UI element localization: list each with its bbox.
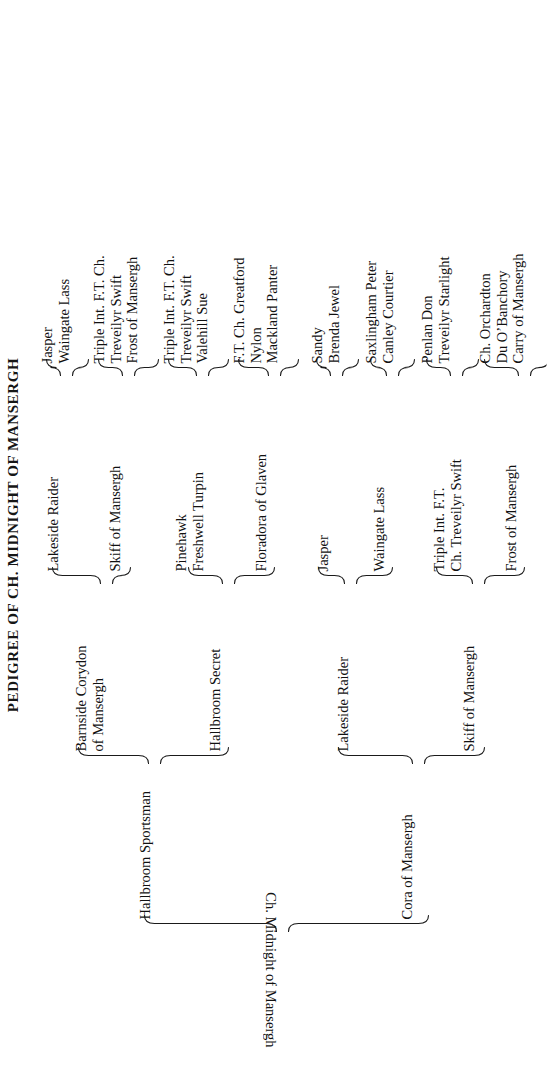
pedigree-page: PEDIGREE OF CH. MIDNIGHT OF MANSERGH Ch.… [0, 0, 551, 1069]
node-name: Sandy Brenda Jewel [308, 284, 341, 363]
pedigree-node: Skiff of Mansergh [106, 465, 123, 571]
pedigree-node: F.T. Ch. Greatford Nylon Mackland Panter [230, 257, 280, 363]
pedigree-node: Lakeside Raider [44, 476, 61, 571]
pedigree-node: Jasper [314, 535, 331, 571]
generation-4-column: Jasper Waingate Lass Triple Int. F.T. Ch… [26, 11, 546, 363]
pedigree-node-sire: Hallbroom Sportsman [136, 791, 153, 919]
page-title: PEDIGREE OF CH. MIDNIGHT OF MANSERGH [4, 0, 18, 1069]
node-name: F.T. Ch. Greatford Nylon Mackland Panter [230, 257, 280, 363]
pedigree-node: Pinehawk Freshwell Turpin [172, 471, 205, 571]
pedigree-node: Ch. Orchardton Du O’Banchory Carry of Ma… [476, 253, 526, 363]
pedigree-node: Saxlingham Peter Canley Courtier [362, 260, 395, 363]
pedigree-node: Hallbroom Secret [206, 648, 223, 751]
node-name: Triple Int. F.T. Ch. Treveilyr Swift [430, 459, 463, 571]
node-name: Saxlingham Peter Canley Courtier [362, 260, 395, 363]
node-name: Triple Int. F.T. Ch. Treveilyr Swift Fro… [90, 255, 140, 363]
generation-3-column: Lakeside Raider Skiff of Mansergh Pineha… [26, 357, 546, 571]
node-name: Barnside Corydon of Mansergh [72, 645, 105, 751]
node-name: Jasper [314, 535, 331, 571]
pedigree-node: Floradora of Glaven [252, 453, 269, 571]
pedigree-node: Skiff of Mansergh [460, 645, 477, 751]
node-name: Floradora of Glaven [252, 453, 269, 571]
pedigree-node: Triple Int. F.T. Ch. Treveilyr Swift Val… [160, 255, 210, 363]
pedigree-node: Barnside Corydon of Mansergh [72, 645, 105, 751]
pedigree-node: Waingate Lass [370, 486, 387, 571]
pedigree-tree: Ch. Midnight of Mansergh Hallbroom Sport… [26, 0, 546, 1069]
node-name: Skiff of Mansergh [106, 465, 123, 571]
node-name: Lakeside Raider [334, 656, 351, 751]
node-name: Lakeside Raider [44, 476, 61, 571]
node-name: Hallbroom Secret [206, 648, 223, 751]
pedigree-node-dam: Cora of Mansergh [398, 814, 415, 919]
node-name: Skiff of Mansergh [460, 645, 477, 751]
node-name: Triple Int. F.T. Ch. Treveilyr Swift Val… [160, 255, 210, 363]
generation-2-column: Barnside Corydon of Mansergh Hallbroom S… [26, 565, 546, 751]
node-name: Penlan Don Treveilyr Starlight [418, 256, 451, 363]
node-name: Ch. Orchardton Du O’Banchory Carry of Ma… [476, 253, 526, 363]
generation-1-column: Hallbroom Sportsman Cora of Mansergh [26, 743, 546, 919]
generation-0-column: Ch. Midnight of Mansergh [26, 897, 546, 1047]
pedigree-node: Penlan Don Treveilyr Starlight [418, 256, 451, 363]
pedigree-node: Triple Int. F.T. Ch. Treveilyr Swift Fro… [90, 255, 140, 363]
pedigree-node: Sandy Brenda Jewel [308, 284, 341, 363]
node-name: Jasper Waingate Lass [38, 278, 71, 363]
pedigree-node: Frost of Mansergh [502, 464, 519, 571]
pedigree-node: Triple Int. F.T. Ch. Treveilyr Swift [430, 459, 463, 571]
node-name: Pinehawk Freshwell Turpin [172, 471, 205, 571]
node-name: Hallbroom Sportsman [136, 791, 153, 919]
pedigree-node: Lakeside Raider [334, 656, 351, 751]
pedigree-node: Jasper Waingate Lass [38, 278, 71, 363]
node-name: Waingate Lass [370, 486, 387, 571]
node-name: Cora of Mansergh [398, 814, 415, 919]
node-name: Frost of Mansergh [502, 464, 519, 571]
rotated-canvas: PEDIGREE OF CH. MIDNIGHT OF MANSERGH Ch.… [0, 0, 551, 1069]
